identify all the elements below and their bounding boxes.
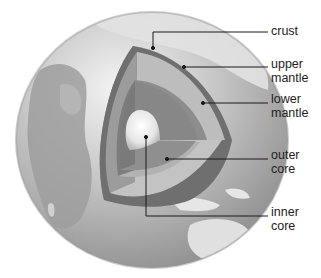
earth-layers-diagram	[0, 0, 321, 278]
leader-dot-upper-mantle	[182, 65, 185, 68]
leader-dot-outer-core	[165, 157, 168, 160]
leader-dot-inner-core	[144, 135, 147, 138]
label-lower-mantle-line2: mantle	[271, 106, 309, 120]
label-outer-core: outer core	[271, 148, 300, 176]
leader-dot-crust	[151, 46, 154, 49]
label-inner-core-line1: inner	[271, 205, 299, 219]
label-inner-core: inner core	[271, 205, 299, 233]
label-upper-mantle-line2: mantle	[271, 71, 309, 85]
label-lower-mantle: lower mantle	[271, 92, 309, 120]
label-crust: crust	[271, 24, 298, 38]
label-upper-mantle-line1: upper	[271, 57, 309, 71]
leader-dot-lower-mantle	[201, 101, 204, 104]
label-upper-mantle: upper mantle	[271, 57, 309, 85]
label-inner-core-line2: core	[271, 219, 299, 233]
label-outer-core-line1: outer	[271, 148, 300, 162]
label-outer-core-line2: core	[271, 162, 300, 176]
label-lower-mantle-line1: lower	[271, 92, 309, 106]
label-crust-line1: crust	[271, 24, 298, 38]
